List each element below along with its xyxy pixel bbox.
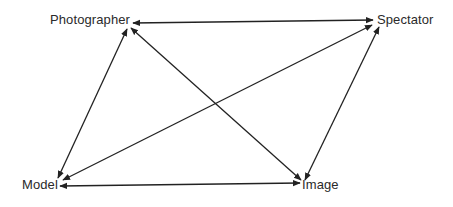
edge-spectator-model [63, 25, 372, 180]
node-spectator: Spectator [377, 13, 434, 26]
node-model: Model [22, 178, 58, 191]
edges-layer [0, 0, 453, 207]
edge-photographer-model [58, 29, 127, 178]
relationship-diagram: Photographer Spectator Model Image [0, 0, 453, 207]
edge-photographer-image [131, 28, 301, 180]
node-image: Image [302, 178, 339, 191]
edge-photographer-spectator [133, 20, 373, 23]
edge-model-image [60, 183, 300, 186]
node-photographer: Photographer [50, 13, 130, 26]
edge-spectator-image [305, 27, 379, 180]
